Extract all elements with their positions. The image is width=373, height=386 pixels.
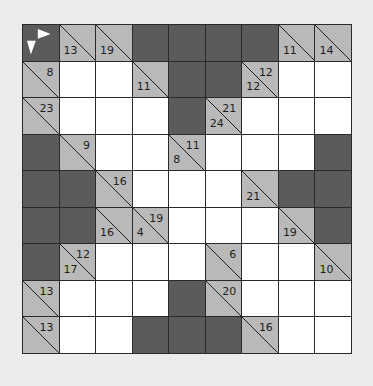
entry-cell[interactable] — [315, 317, 351, 353]
clue-cell: 16 — [242, 317, 278, 353]
clue-cell: 16 — [96, 171, 132, 207]
across-clue: 6 — [229, 249, 236, 260]
entry-cell[interactable] — [206, 171, 242, 207]
across-clue: 13 — [40, 322, 54, 333]
blocked-cell — [23, 171, 59, 207]
across-clue: 16 — [259, 322, 273, 333]
entry-cell[interactable] — [60, 317, 96, 353]
down-clue: 13 — [64, 45, 78, 56]
clue-cell: 19 — [96, 25, 132, 61]
clue-cell: 1217 — [60, 244, 96, 280]
entry-cell[interactable] — [133, 98, 169, 134]
entry-cell[interactable] — [242, 135, 278, 171]
entry-cell[interactable] — [96, 244, 132, 280]
blocked-cell — [23, 244, 59, 280]
clue-cell: 11 — [279, 25, 315, 61]
clue-cell: 19 — [279, 208, 315, 244]
entry-cell[interactable] — [133, 244, 169, 280]
entry-cell[interactable] — [279, 135, 315, 171]
blocked-cell — [169, 98, 205, 134]
clue-cell: 14 — [315, 25, 351, 61]
down-clue: 8 — [173, 154, 180, 165]
entry-cell[interactable] — [169, 171, 205, 207]
clue-cell: 21 — [242, 171, 278, 207]
clue-cell: 194 — [133, 208, 169, 244]
entry-cell[interactable] — [60, 62, 96, 98]
clue-cell: 9 — [60, 135, 96, 171]
entry-cell[interactable] — [60, 98, 96, 134]
down-clue: 21 — [246, 191, 260, 202]
across-clue: 23 — [40, 103, 54, 114]
entry-cell[interactable] — [279, 98, 315, 134]
clue-cell: 11 — [133, 62, 169, 98]
blocked-cell — [315, 171, 351, 207]
across-clue: 11 — [186, 140, 200, 151]
across-clue: 12 — [259, 67, 273, 78]
blocked-cell — [242, 25, 278, 61]
blocked-cell — [315, 135, 351, 171]
down-clue: 11 — [283, 45, 297, 56]
corner-cell — [23, 25, 59, 61]
entry-cell[interactable] — [96, 281, 132, 317]
clue-cell: 13 — [60, 25, 96, 61]
blocked-cell — [169, 317, 205, 353]
entry-cell[interactable] — [279, 62, 315, 98]
down-clue: 4 — [137, 227, 144, 238]
entry-cell[interactable] — [242, 281, 278, 317]
entry-cell[interactable] — [60, 281, 96, 317]
blocked-cell — [23, 208, 59, 244]
entry-cell[interactable] — [96, 317, 132, 353]
clue-cell: 13 — [23, 281, 59, 317]
blocked-cell — [133, 317, 169, 353]
entry-cell[interactable] — [96, 98, 132, 134]
blocked-cell — [279, 171, 315, 207]
across-clue: 20 — [222, 286, 236, 297]
kakuro-board: 1319111481112122321249118162116194191217… — [22, 24, 352, 354]
clue-cell: 16 — [96, 208, 132, 244]
entry-cell[interactable] — [169, 244, 205, 280]
across-clue: 8 — [47, 67, 54, 78]
entry-cell[interactable] — [206, 208, 242, 244]
down-clue: 11 — [137, 81, 151, 92]
entry-cell[interactable] — [169, 208, 205, 244]
across-clue: 19 — [149, 213, 163, 224]
across-clue: 9 — [83, 140, 90, 151]
entry-cell[interactable] — [279, 244, 315, 280]
down-clue: 14 — [319, 45, 333, 56]
blocked-cell — [169, 25, 205, 61]
entry-cell[interactable] — [315, 62, 351, 98]
entry-cell[interactable] — [242, 244, 278, 280]
entry-cell[interactable] — [133, 281, 169, 317]
down-clue: 12 — [246, 81, 260, 92]
clue-cell: 20 — [206, 281, 242, 317]
blocked-cell — [169, 281, 205, 317]
blocked-cell — [206, 25, 242, 61]
across-clue: 13 — [40, 286, 54, 297]
down-clue: 10 — [319, 264, 333, 275]
clue-cell: 23 — [23, 98, 59, 134]
down-clue: 24 — [210, 118, 224, 129]
entry-cell[interactable] — [279, 317, 315, 353]
blocked-cell — [23, 135, 59, 171]
entry-cell[interactable] — [279, 281, 315, 317]
entry-cell[interactable] — [96, 135, 132, 171]
entry-cell[interactable] — [206, 135, 242, 171]
blocked-cell — [60, 171, 96, 207]
entry-cell[interactable] — [133, 135, 169, 171]
blocked-cell — [133, 25, 169, 61]
clue-cell: 13 — [23, 317, 59, 353]
entry-cell[interactable] — [242, 98, 278, 134]
clue-cell: 2124 — [206, 98, 242, 134]
clue-cell: 8 — [23, 62, 59, 98]
entry-cell[interactable] — [242, 208, 278, 244]
down-clue: 17 — [64, 264, 78, 275]
down-clue: 19 — [100, 45, 114, 56]
blocked-cell — [206, 62, 242, 98]
blocked-cell — [60, 208, 96, 244]
blocked-cell — [169, 62, 205, 98]
entry-cell[interactable] — [315, 98, 351, 134]
across-clue: 21 — [222, 103, 236, 114]
entry-cell[interactable] — [133, 171, 169, 207]
entry-cell[interactable] — [96, 62, 132, 98]
entry-cell[interactable] — [315, 281, 351, 317]
